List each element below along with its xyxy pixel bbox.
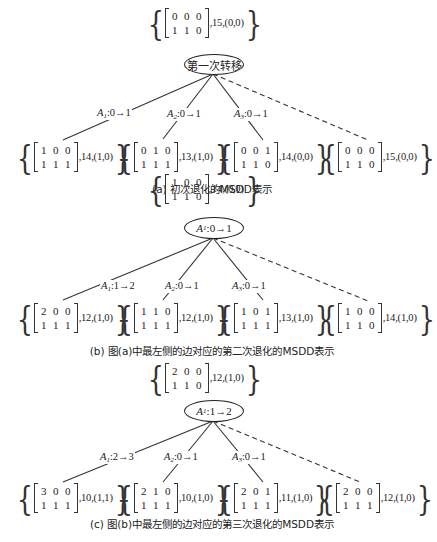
matrix: 300 111 bbox=[34, 484, 78, 512]
matrix: 200 111 bbox=[336, 484, 380, 512]
set-suffix: ,12,(1,0) bbox=[381, 493, 415, 504]
set-suffix: ,12,(1,0) bbox=[210, 373, 244, 384]
panel-a-root-set: { 0 0 0 1 1 0 ,15,(0,0) } bbox=[145, 6, 264, 40]
panel-c-edge-label-3: A3:0→1 bbox=[231, 451, 267, 464]
panel-b-edge-label-2: A2:0→1 bbox=[164, 280, 200, 293]
set-suffix: ,14,(0,0) bbox=[279, 152, 313, 163]
panel-a-child-3: { 001 110 ,14,(0,0) } bbox=[214, 140, 333, 174]
panel-b-child-4: { 100 110 ,14,(1,0) } bbox=[318, 301, 437, 335]
set-suffix: ,13,(1,0) bbox=[179, 152, 213, 163]
set-suffix: ,12,(1,0) bbox=[179, 313, 213, 324]
edge-a-4-dashed bbox=[213, 74, 368, 140]
left-brace: { bbox=[217, 140, 233, 174]
edge-a-3 bbox=[213, 74, 263, 140]
left-brace: { bbox=[117, 301, 133, 335]
cell: 0 bbox=[193, 9, 205, 23]
panel-b-edge-label-1: A1:1→2 bbox=[100, 280, 136, 293]
set-suffix: ,13,(1,0) bbox=[279, 313, 313, 324]
right-brace: } bbox=[245, 361, 261, 395]
cell: 0 bbox=[169, 9, 181, 23]
left-brace: { bbox=[148, 6, 164, 40]
right-brace: } bbox=[245, 172, 261, 206]
matrix: 000 110 bbox=[338, 143, 382, 171]
left-brace: { bbox=[319, 481, 335, 515]
set-suffix: ,15,(0,0) bbox=[383, 152, 417, 163]
matrix: 201 111 bbox=[234, 484, 278, 512]
panel-a-child-4: { 000 110 ,15,(0,0) } bbox=[318, 140, 437, 174]
set-suffix: ,14,(1,0) bbox=[383, 313, 417, 324]
cell: 1 bbox=[169, 23, 181, 37]
panel-a-node: 第一次转移 bbox=[184, 54, 244, 75]
panel-a-edge-label-3: A3:0→1 bbox=[233, 108, 269, 121]
left-brace: { bbox=[17, 301, 33, 335]
left-brace: { bbox=[148, 172, 164, 206]
node-label: 第一次转移 bbox=[187, 57, 242, 73]
panel-b-child-3: { 101 111 ,13,(1,0) } bbox=[214, 301, 333, 335]
matrix: 100 111 bbox=[34, 143, 78, 171]
panel-b-root-set: { 100 110 ,14,(0,0) } bbox=[145, 172, 264, 206]
matrix: 010 111 bbox=[134, 143, 178, 171]
left-brace: { bbox=[17, 481, 33, 515]
left-brace: { bbox=[217, 301, 233, 335]
cell: 0 bbox=[193, 23, 205, 37]
set-suffix: ,11,(1,0) bbox=[279, 493, 313, 504]
set-suffix: ,12,(1,0) bbox=[79, 313, 113, 324]
panel-a-edge-label-2: A2:0→1 bbox=[166, 108, 202, 121]
set-suffix: ,15,(0,0) bbox=[210, 18, 244, 29]
left-brace: { bbox=[217, 481, 233, 515]
right-brace: } bbox=[416, 481, 432, 515]
edge-a-2 bbox=[163, 74, 213, 139]
set-suffix: ,10,(1,1) bbox=[79, 493, 113, 504]
cell: 0 bbox=[181, 9, 193, 23]
cell: 1 bbox=[181, 23, 193, 37]
set-suffix: ,14,(1,0) bbox=[79, 152, 113, 163]
panel-b-caption: (b) 图(a)中最左侧的边对应的第二次退化的MSDD表示 bbox=[90, 343, 335, 358]
panel-a-edge-label-1: A1:0→1 bbox=[96, 107, 132, 120]
matrix: 0 0 0 1 1 0 bbox=[165, 9, 209, 37]
set-suffix: ,14,(0,0) bbox=[210, 184, 244, 195]
matrix: 110 111 bbox=[134, 304, 178, 332]
panel-b-edge-label-3: A3:0→1 bbox=[231, 280, 267, 293]
left-brace: { bbox=[148, 361, 164, 395]
right-brace: } bbox=[418, 301, 434, 335]
panel-c-node: A1:1→2 bbox=[184, 400, 244, 422]
panel-c-edge-label-1: A1:2→3 bbox=[99, 451, 135, 464]
matrix: 210 111 bbox=[134, 484, 178, 512]
panel-c-root-set: { 200 110 ,12,(1,0) } bbox=[145, 361, 264, 395]
matrix: 200 110 bbox=[165, 364, 209, 392]
matrix: 001 110 bbox=[234, 143, 278, 171]
matrix: 101 111 bbox=[234, 304, 278, 332]
panel-c-edge-label-2: A2:0→1 bbox=[163, 451, 199, 464]
left-brace: { bbox=[321, 301, 337, 335]
panel-c-caption: (c) 图(b)中最左侧的边对应的第三次退化的MSDD表示 bbox=[90, 516, 334, 531]
right-brace: } bbox=[245, 6, 261, 40]
set-suffix: ,10,(1,0) bbox=[179, 493, 213, 504]
matrix: 100 110 bbox=[338, 304, 382, 332]
matrix: 100 110 bbox=[165, 175, 209, 203]
matrix: 200 111 bbox=[34, 304, 78, 332]
panel-c-child-4: { 200 111 ,12,(1,0) } bbox=[316, 481, 435, 515]
right-brace: } bbox=[418, 140, 434, 174]
edge-a-1 bbox=[63, 74, 213, 140]
left-brace: { bbox=[321, 140, 337, 174]
left-brace: { bbox=[117, 140, 133, 174]
left-brace: { bbox=[117, 481, 133, 515]
left-brace: { bbox=[17, 140, 33, 174]
panel-b-node: A1:0→1 bbox=[184, 217, 244, 239]
